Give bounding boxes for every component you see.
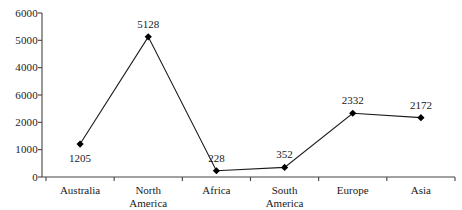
data-value-label: 2332 xyxy=(342,95,364,106)
plot-area xyxy=(0,0,462,209)
x-axis-category-label: Asia xyxy=(411,184,431,197)
x-axis-category-label-line: North xyxy=(129,184,167,197)
x-axis-category-label: NorthAmerica xyxy=(129,184,167,209)
x-axis-category-label: Africa xyxy=(202,184,230,197)
data-point-marker xyxy=(76,140,83,147)
x-axis-category-label-line: Asia xyxy=(411,184,431,197)
data-series-line xyxy=(80,37,421,171)
x-axis-category-label-line: America xyxy=(266,197,304,210)
data-point-markers xyxy=(76,33,424,174)
x-axis-category-label: SouthAmerica xyxy=(266,184,304,209)
x-axis-category-label-line: Australia xyxy=(60,184,100,197)
data-value-label: 5128 xyxy=(137,19,159,30)
x-axis-category-label-line: America xyxy=(129,197,167,210)
data-point-marker xyxy=(213,167,220,174)
data-value-label: 352 xyxy=(276,149,293,160)
x-axis-category-label: Europe xyxy=(337,184,369,197)
data-point-marker xyxy=(417,114,424,121)
line-chart: 6000500040006000200010000 AustraliaNorth… xyxy=(0,0,462,209)
x-axis-category-label-line: South xyxy=(266,184,304,197)
axis-lines xyxy=(42,13,455,177)
data-value-label: 2172 xyxy=(410,100,432,111)
data-point-marker xyxy=(145,33,152,40)
data-value-label: 228 xyxy=(208,153,225,164)
x-axis-category-label-line: Africa xyxy=(202,184,230,197)
data-value-label: 1205 xyxy=(69,153,91,164)
axis-tick-marks xyxy=(38,13,455,181)
x-axis-category-label: Australia xyxy=(60,184,100,197)
x-axis-category-label-line: Europe xyxy=(337,184,369,197)
